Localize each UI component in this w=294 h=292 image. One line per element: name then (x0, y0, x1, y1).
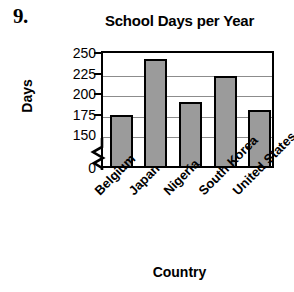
y-tick-mark-225 (94, 73, 101, 75)
y-tick-mark-175 (94, 114, 101, 116)
y-tick-label-225: 225 (52, 67, 96, 81)
y-tick-label-250: 250 (52, 46, 96, 60)
y-tick-label-200: 200 (52, 87, 96, 101)
y-tick-mark-250 (94, 52, 101, 54)
x-axis-title: Country (72, 264, 287, 280)
y-tick-mark-200 (94, 93, 101, 95)
y-tick-label-175: 175 (52, 108, 96, 122)
axis-break-icon (90, 138, 106, 170)
chart-figure: 9. School Days per Year Days 01501752002… (0, 0, 294, 292)
